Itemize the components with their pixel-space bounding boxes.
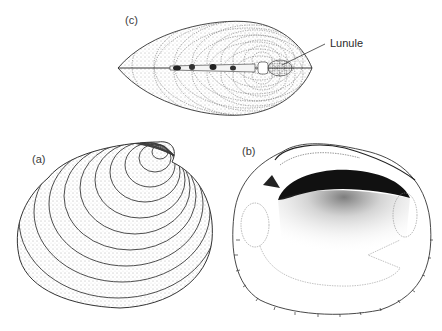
lunule-label: Lunule	[330, 37, 363, 49]
panel-b-label: (b)	[242, 145, 255, 157]
panel-c-dorsal-view	[118, 10, 348, 122]
panel-a-label: (a)	[32, 153, 45, 165]
bivalve-figure: (c) Lunule (a)	[0, 0, 442, 331]
panel-a-external-view	[5, 142, 225, 312]
panel-c-label: (c)	[125, 14, 138, 26]
figure-caption	[10, 326, 430, 331]
panel-b-internal-view	[233, 144, 433, 317]
